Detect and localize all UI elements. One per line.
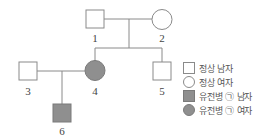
legend-item-normal-male: 정상 남자	[183, 61, 252, 75]
individual-3-male-normal	[19, 62, 37, 80]
legend: 정상 남자 정상 여자 유전병 ㉠ 남자 유전병 ㉠ 여자	[183, 61, 252, 117]
circle-empty-icon	[183, 76, 195, 88]
individual-4-female-affected	[85, 61, 105, 81]
individual-label-5: 5	[154, 85, 170, 97]
legend-label: 유전병 ㉠ 남자	[199, 90, 252, 103]
individual-label-6: 6	[54, 125, 70, 137]
square-empty-icon	[183, 62, 195, 74]
legend-item-affected-male: 유전병 ㉠ 남자	[183, 89, 252, 103]
square-filled-icon	[183, 90, 195, 102]
individual-label-2: 2	[154, 32, 170, 44]
legend-label: 정상 여자	[199, 76, 233, 89]
individual-label-1: 1	[87, 32, 103, 44]
individual-1-male-normal	[86, 10, 104, 28]
individual-label-3: 3	[20, 85, 36, 97]
legend-item-affected-female: 유전병 ㉠ 여자	[183, 103, 252, 117]
individual-label-4: 4	[87, 85, 103, 97]
legend-label: 유전병 ㉠ 여자	[199, 104, 252, 117]
individual-2-female-normal	[152, 10, 172, 30]
legend-item-normal-female: 정상 여자	[183, 75, 252, 89]
legend-label: 정상 남자	[199, 62, 233, 75]
individual-6-male-affected	[53, 104, 71, 122]
circle-filled-icon	[183, 104, 195, 116]
individual-5-male-normal	[153, 62, 171, 80]
